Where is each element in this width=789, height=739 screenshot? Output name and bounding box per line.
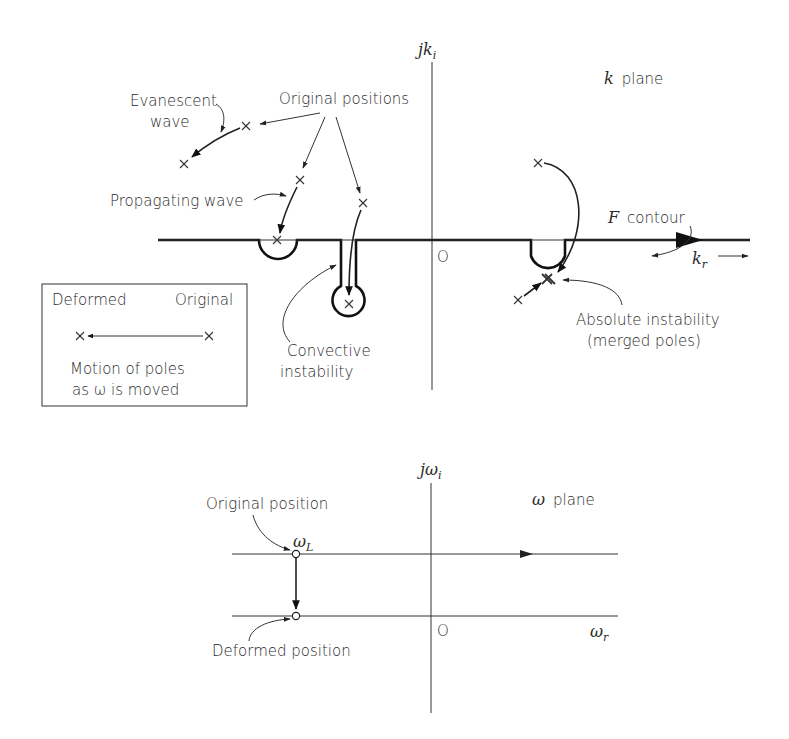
diagram-canvas: jki O kr kplane Fcontour Original positi… [0, 0, 789, 739]
legend-caption-line1: Motion of poles [70, 360, 185, 378]
omega-plane-title: ωplane [532, 490, 595, 509]
propagating-motion-arrow [280, 187, 297, 233]
evanescent-label-line1: Evanescent [130, 92, 217, 110]
absolute-label-line1: Absolute instability [576, 311, 720, 329]
convective-label-line2: instability [280, 363, 353, 381]
omega-imag-axis-label: jωi [417, 460, 442, 482]
legend-box: Deformed Original Motion of poles as ω i… [42, 284, 247, 406]
evanescent-deformed-pole-icon [180, 160, 188, 168]
orig-arrow-evanescent [260, 113, 320, 124]
k-plane: jki O kr kplane Fcontour Original positi… [110, 40, 750, 390]
absolute-original-pole-lower-icon [514, 296, 522, 304]
absolute-label-line2: (merged poles) [587, 332, 701, 350]
evanescent-motion-arrow [192, 128, 240, 157]
propagating-original-pole-icon [296, 176, 304, 184]
omega-contour-arrow-icon [520, 550, 533, 558]
k-origin-label: O [437, 248, 449, 266]
legend-original-pole-icon [205, 332, 213, 340]
orig-arrow-propagating [303, 117, 325, 168]
absolute-motion-arrow-lower [524, 283, 541, 296]
evanescent-pointer [216, 104, 224, 132]
absolute-original-pole-upper-icon [534, 159, 542, 167]
deformed-position-pointer [249, 619, 290, 641]
legend-original-label: Original [175, 291, 233, 309]
convective-label-line1: Convective [287, 342, 371, 360]
omega-real-axis-label: ωr [590, 622, 609, 644]
original-position-label: Original position [206, 495, 328, 513]
legend-deformed-label: Deformed [52, 291, 127, 309]
omega-original-point-icon [292, 550, 299, 557]
original-positions-label: Original positions [279, 90, 409, 108]
convective-pointer [283, 265, 336, 342]
k-imag-axis-label: jki [415, 40, 436, 62]
absolute-merged-pole-icon [542, 274, 555, 284]
convective-original-pole-icon [359, 199, 367, 207]
orig-arrow-convective [336, 117, 360, 193]
contour-direction-arrow-icon [676, 232, 703, 248]
deformed-position-label: Deformed position [212, 642, 351, 660]
k-plane-title: kplane [604, 69, 663, 88]
absolute-motion-arrow-upper [544, 163, 579, 272]
evanescent-label-line2: wave [150, 113, 190, 131]
absolute-pointer [563, 280, 622, 305]
omega-origin-label: O [437, 622, 449, 640]
k-real-axis-label: kr [692, 249, 708, 271]
legend-deformed-pole-icon [76, 332, 84, 340]
omega-deformed-point-icon [292, 612, 299, 619]
omega-plane: jωi O ωr ωplane ωL Original position Def… [206, 460, 618, 713]
convective-deformed-pole-icon [345, 300, 353, 308]
original-position-pointer [253, 515, 290, 550]
legend-caption-line2: as ω is moved [72, 381, 179, 399]
propagating-pointer [254, 194, 286, 200]
evanescent-original-pole-icon [242, 122, 250, 130]
f-contour-label: Fcontour [607, 208, 686, 227]
propagating-wave-label: Propagating wave [110, 192, 244, 210]
